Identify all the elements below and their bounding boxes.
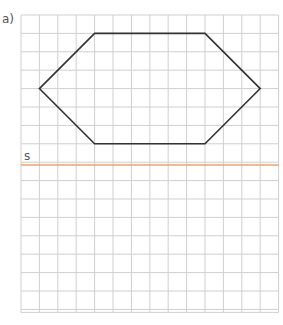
- grid-figure: [0, 0, 283, 325]
